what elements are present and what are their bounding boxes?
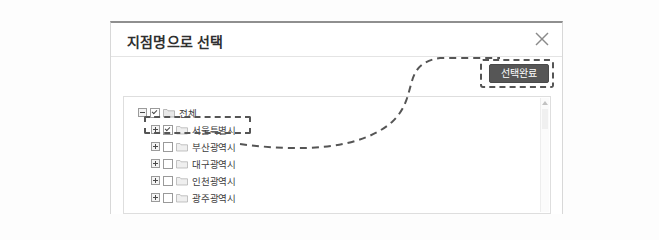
checkbox-icon[interactable]: [163, 193, 173, 203]
tree-item-label: 부산광역시: [192, 140, 236, 154]
folder-icon: [176, 125, 188, 135]
folder-icon: [163, 108, 175, 118]
tree-row[interactable]: 광주광역시: [151, 190, 236, 205]
page-title: 지점명으로 선택: [127, 31, 224, 51]
close-icon[interactable]: [531, 28, 553, 50]
folder-icon: [176, 159, 188, 169]
expand-plus-icon[interactable]: [151, 193, 160, 202]
dialog-body: 선택완료 전체: [111, 57, 562, 214]
tree-scrollbar[interactable]: [540, 98, 549, 212]
expand-plus-icon[interactable]: [151, 176, 160, 185]
tree-item-label: 인천광역시: [192, 174, 236, 188]
tree-item-label: 전체: [179, 106, 197, 120]
tree-row[interactable]: 대구광역시: [151, 156, 236, 171]
tree-item-label: 대구광역시: [192, 157, 236, 171]
select-by-branch-name-dialog: 지점명으로 선택 선택완료: [110, 21, 563, 214]
checkbox-icon[interactable]: [163, 159, 173, 169]
checkbox-icon[interactable]: [163, 142, 173, 152]
branch-tree-panel: 전체 서울특별시: [123, 96, 551, 214]
folder-icon: [176, 142, 188, 152]
tree-root-list: 전체 서울특별시: [138, 105, 236, 207]
checkbox-icon[interactable]: [163, 125, 173, 135]
tree-item-label: 광주광역시: [192, 191, 236, 205]
scroll-up-arrow-icon[interactable]: [542, 101, 548, 105]
dialog-header: 지점명으로 선택: [111, 23, 562, 57]
complete-selection-button[interactable]: 선택완료: [489, 64, 549, 83]
tree-row[interactable]: 전체: [138, 105, 236, 120]
tree-row[interactable]: 부산광역시: [151, 139, 236, 154]
folder-icon: [176, 176, 188, 186]
tree-row[interactable]: 서울특별시: [151, 122, 236, 137]
scrollbar-thumb[interactable]: [542, 109, 548, 129]
tree-row[interactable]: 인천광역시: [151, 173, 236, 188]
folder-icon: [176, 193, 188, 203]
checkbox-icon[interactable]: [150, 108, 160, 118]
checkbox-icon[interactable]: [163, 176, 173, 186]
expand-plus-icon[interactable]: [151, 125, 160, 134]
expand-plus-icon[interactable]: [151, 159, 160, 168]
tree-item-label: 서울특별시: [192, 123, 236, 137]
collapse-minus-icon[interactable]: [138, 108, 147, 117]
expand-plus-icon[interactable]: [151, 142, 160, 151]
